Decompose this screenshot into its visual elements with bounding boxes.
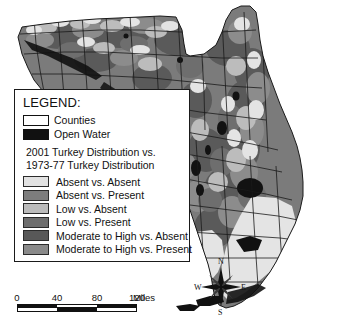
legend-swatch-absent-vs-absent xyxy=(23,176,49,187)
legend-item-absent-vs-present: Absent vs. Present xyxy=(23,189,189,203)
scale-tick-80: 80 xyxy=(92,292,103,303)
compass-label-north: N xyxy=(218,257,224,266)
legend-label-open-water: Open Water xyxy=(54,128,110,140)
compass-label-west: W xyxy=(194,283,202,292)
legend-box: LEGEND: Counties Open Water 2001 Turkey … xyxy=(14,89,190,262)
legend-label-low-vs-present: Low vs. Present xyxy=(56,216,131,228)
legend-item-modhigh-vs-present: Moderate to High vs. Present xyxy=(23,243,189,257)
legend-class-list: Absent vs. Absent Absent vs. Present Low… xyxy=(23,175,189,256)
legend-item-open-water: Open Water xyxy=(23,127,189,141)
legend-label-modhigh-vs-absent: Moderate to High vs. Absent xyxy=(56,230,188,242)
compass-label-south: S xyxy=(218,308,222,317)
legend-swatch-open-water xyxy=(23,129,49,140)
legend-label-absent-vs-absent: Absent vs. Absent xyxy=(56,176,140,188)
scale-tick-40: 40 xyxy=(52,292,63,303)
legend-swatch-absent-vs-present xyxy=(23,190,49,201)
scale-bar-row-bottom xyxy=(17,308,137,312)
legend-item-counties: Counties xyxy=(23,113,189,127)
scale-unit-label: Miles xyxy=(133,292,155,303)
scale-bar: 0 40 80 120 Miles xyxy=(17,292,162,312)
scale-tick-0: 0 xyxy=(14,292,19,303)
legend-item-modhigh-vs-absent: Moderate to High vs. Absent xyxy=(23,229,189,243)
legend-label-counties: Counties xyxy=(54,114,95,126)
legend-subtitle-line1: 2001 Turkey Distribution vs. xyxy=(26,146,189,159)
legend-item-absent-vs-absent: Absent vs. Absent xyxy=(23,175,189,189)
compass-rose: N E S W xyxy=(192,258,250,316)
legend-swatch-modhigh-vs-absent xyxy=(23,230,49,241)
scale-seg-3 xyxy=(57,308,97,311)
legend-item-low-vs-present: Low vs. Present xyxy=(23,216,189,230)
legend-heading: LEGEND: xyxy=(23,96,189,110)
legend-item-low-vs-absent: Low vs. Absent xyxy=(23,202,189,216)
legend-swatch-counties xyxy=(23,115,49,126)
scale-seg-1 xyxy=(18,305,57,307)
scale-bar-graphic xyxy=(17,304,137,312)
legend-swatch-modhigh-vs-present xyxy=(23,244,49,255)
scale-tick-labels: 0 40 80 120 Miles xyxy=(17,292,137,304)
map-figure: LEGEND: Counties Open Water 2001 Turkey … xyxy=(0,0,337,319)
legend-swatch-low-vs-absent xyxy=(23,203,49,214)
compass-label-east: E xyxy=(241,283,246,292)
legend-swatch-low-vs-present xyxy=(23,217,49,228)
legend-label-modhigh-vs-present: Moderate to High vs. Present xyxy=(56,243,192,255)
scale-seg-2 xyxy=(97,305,136,307)
legend-subtitle-line2: 1973-77 Turkey Distribution xyxy=(26,159,189,172)
legend-label-absent-vs-present: Absent vs. Present xyxy=(56,189,144,201)
legend-label-low-vs-absent: Low vs. Absent xyxy=(56,203,127,215)
